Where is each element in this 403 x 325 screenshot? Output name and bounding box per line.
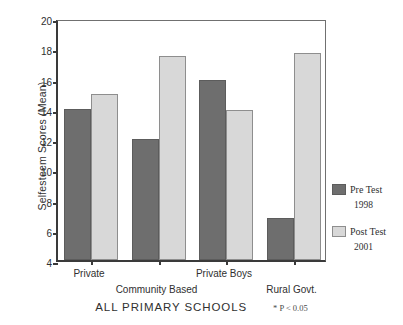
y-axis-tick-label: 8 bbox=[46, 197, 52, 208]
legend-entry-post-test: Post Test 2001 bbox=[332, 225, 402, 254]
y-axis-tick-label: 18 bbox=[41, 46, 52, 57]
legend-swatch-pre-test bbox=[332, 184, 346, 195]
y-axis-tick-label: 20 bbox=[41, 16, 52, 27]
significance-note: * P < 0.05 bbox=[273, 303, 308, 313]
legend: Pre Test 1998 Post Test 2001 bbox=[332, 183, 402, 267]
legend-entry-pre-test: Pre Test 1998 bbox=[332, 183, 402, 212]
y-axis-tick bbox=[53, 51, 58, 53]
chart-title: ALL PRIMARY SCHOOLS bbox=[95, 301, 247, 313]
y-axis-tick bbox=[53, 263, 58, 265]
y-axis-tick bbox=[53, 142, 58, 144]
y-axis-tick-label: 10 bbox=[41, 167, 52, 178]
x-axis-category-label: Rural Govt. bbox=[266, 284, 317, 295]
plot-area: 468101214161820 bbox=[56, 20, 326, 262]
legend-label-post-test: Post Test bbox=[350, 226, 386, 237]
x-axis-category-label: Community Based bbox=[116, 284, 198, 295]
y-axis-tick bbox=[53, 233, 58, 235]
bar bbox=[159, 56, 186, 260]
bar bbox=[199, 80, 226, 260]
bar-chart: Selfesteem Scores (Mean) 468101214161820… bbox=[0, 0, 403, 325]
x-axis-tick bbox=[159, 260, 161, 265]
legend-swatch-post-test bbox=[332, 226, 346, 237]
y-axis-tick-label: 14 bbox=[41, 106, 52, 117]
x-axis-tick bbox=[226, 260, 228, 265]
legend-year-post-test: 2001 bbox=[354, 242, 402, 254]
bar bbox=[64, 109, 91, 260]
bar bbox=[267, 218, 294, 260]
y-axis-tick bbox=[53, 203, 58, 205]
y-axis-tick bbox=[53, 112, 58, 114]
chart-footer: ALL PRIMARY SCHOOLS * P < 0.05 bbox=[0, 297, 403, 315]
y-axis-tick bbox=[53, 82, 58, 84]
bar bbox=[294, 53, 321, 260]
y-axis-tick bbox=[53, 172, 58, 174]
x-axis-tick bbox=[294, 260, 296, 265]
y-axis-tick-label: 16 bbox=[41, 76, 52, 87]
x-axis-tick bbox=[91, 260, 93, 265]
bar bbox=[132, 139, 159, 260]
x-axis-category-label: Private bbox=[73, 268, 104, 279]
legend-label-pre-test: Pre Test bbox=[350, 184, 382, 195]
bar bbox=[226, 110, 253, 260]
x-axis-category-label: Private Boys bbox=[196, 268, 252, 279]
bars-container bbox=[58, 21, 325, 260]
y-axis-tick bbox=[53, 21, 58, 23]
legend-year-pre-test: 1998 bbox=[354, 200, 402, 212]
bar bbox=[91, 94, 118, 260]
y-axis-tick-label: 6 bbox=[46, 227, 52, 238]
y-axis-tick-label: 4 bbox=[46, 258, 52, 269]
y-axis-tick-label: 12 bbox=[41, 137, 52, 148]
